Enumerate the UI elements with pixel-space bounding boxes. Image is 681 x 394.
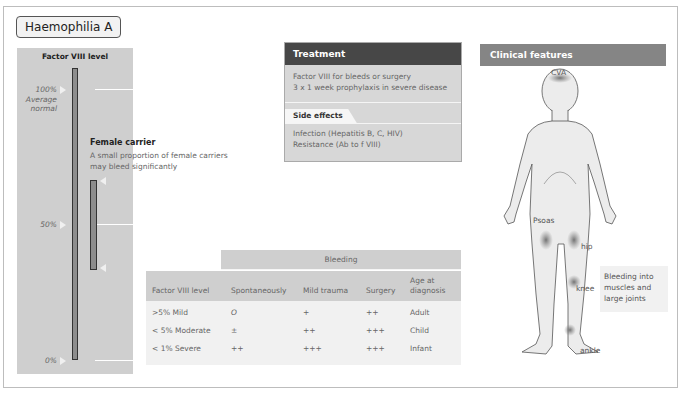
cell-surgery: +++ xyxy=(366,326,385,335)
carrier-line-2: may bleed significantly xyxy=(90,161,260,172)
line-50 xyxy=(95,224,133,225)
label-cva: CVA xyxy=(551,68,566,77)
bleeding-group-header: Bleeding xyxy=(221,250,461,270)
label-hip: hip xyxy=(581,242,593,251)
cell-age: Infant xyxy=(410,344,432,353)
label-ankle: ankle xyxy=(580,346,600,355)
col-surgery: Surgery xyxy=(366,286,395,296)
side-effect-item: Infection (Hepatitis B, C, HIV) xyxy=(293,128,457,139)
side-effects-heading: Side effects xyxy=(285,109,357,123)
cell-age: Child xyxy=(410,326,429,335)
col-age-line1: Age at xyxy=(410,276,434,286)
cell-spontaneous: ± xyxy=(231,326,237,335)
cell-mild-trauma: +++ xyxy=(303,344,322,353)
cell-spontaneous: ++ xyxy=(231,344,244,353)
cell-surgery: ++ xyxy=(366,308,379,317)
treatment-list: Factor VIII for bleeds or surgery 3 x 1 … xyxy=(285,65,461,103)
line-0 xyxy=(95,360,133,361)
tick-label-0: 0% xyxy=(17,356,57,365)
side-effects-list: Infection (Hepatitis B, C, HIV) Resistan… xyxy=(285,123,461,154)
note-line: muscles and xyxy=(604,282,664,293)
treatment-box: Treatment Factor VIII for bleeds or surg… xyxy=(284,42,462,162)
cell-level: >5% Mild xyxy=(152,308,188,317)
line-100 xyxy=(95,89,133,90)
figure-title: Haemophilia A xyxy=(16,16,121,38)
tick-sublabel-normal: normal xyxy=(17,104,57,113)
factor-level-bar xyxy=(72,68,78,360)
col-age-line2: diagnosis xyxy=(410,286,445,296)
tick-sublabel-average: Average xyxy=(17,95,57,104)
tick-label-50: 50% xyxy=(17,220,57,229)
table-header-row: Factor VIII level Spontaneously Mild tra… xyxy=(146,271,461,301)
bleeding-note: Bleeding into muscles and large joints xyxy=(600,266,668,312)
treatment-heading: Treatment xyxy=(285,43,461,65)
carrier-lower-marker-icon xyxy=(100,264,106,272)
cell-level: < 5% Moderate xyxy=(152,326,211,335)
treatment-item: Factor VIII for bleeds or surgery xyxy=(293,71,457,82)
table-row: >5% Mild O + ++ Adult xyxy=(146,304,461,322)
col-factor-level: Factor VIII level xyxy=(152,286,209,296)
table-row: < 5% Moderate ± ++ +++ Child xyxy=(146,322,461,340)
label-psoas: Psoas xyxy=(533,216,554,225)
carrier-range-bar xyxy=(90,180,97,270)
bleeding-severity-table: Bleeding Factor VIII level Spontaneously… xyxy=(146,250,461,360)
marker-100-icon xyxy=(60,86,66,94)
note-line: Bleeding into xyxy=(604,271,664,282)
cell-mild-trauma: ++ xyxy=(303,326,316,335)
side-effect-item: Resistance (Ab to f VIII) xyxy=(293,139,457,150)
factor-panel-title: Factor VIII level xyxy=(17,52,133,61)
carrier-upper-marker-icon xyxy=(100,177,106,185)
cell-surgery: +++ xyxy=(366,344,385,353)
cell-mild-trauma: + xyxy=(303,308,309,317)
marker-0-icon xyxy=(60,357,66,365)
cell-spontaneous: O xyxy=(231,308,237,317)
table-row: < 1% Severe ++ +++ +++ Infant xyxy=(146,340,461,358)
factor-level-panel: Factor VIII level 100% Average normal 50… xyxy=(17,48,133,374)
clinical-features-heading: Clinical features xyxy=(480,44,666,66)
col-mild-trauma: Mild trauma xyxy=(303,286,348,296)
human-body-figure-icon xyxy=(476,64,676,374)
cell-age: Adult xyxy=(410,308,430,317)
label-knee: knee xyxy=(576,284,594,293)
tick-label-100: 100% xyxy=(17,85,57,94)
female-carrier-heading: Female carrier xyxy=(90,138,155,147)
carrier-line-1: A small proportion of female carriers xyxy=(90,150,260,161)
note-line: large joints xyxy=(604,293,664,304)
treatment-item: 3 x 1 week prophylaxis in severe disease xyxy=(293,82,457,93)
marker-50-icon xyxy=(60,221,66,229)
col-spontaneously: Spontaneously xyxy=(231,286,287,296)
cell-level: < 1% Severe xyxy=(152,344,201,353)
female-carrier-text: A small proportion of female carriers ma… xyxy=(90,150,260,172)
table-body: >5% Mild O + ++ Adult < 5% Moderate ± ++… xyxy=(146,301,461,365)
